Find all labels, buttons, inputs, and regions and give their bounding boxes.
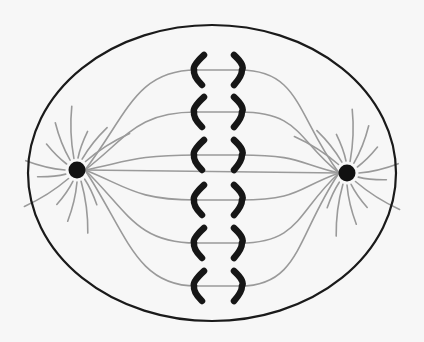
spindle-fiber [85, 170, 196, 200]
spindle-fiber [240, 112, 339, 173]
astral-ray [78, 131, 88, 158]
astral-ray [55, 123, 70, 160]
astral-ray [71, 106, 74, 158]
astral-ray [38, 174, 66, 177]
astral-ray [327, 182, 339, 208]
spindle-fiber [85, 170, 196, 243]
spindle-fiber [240, 155, 339, 173]
spindle-fiber [85, 112, 196, 170]
astral-ray [358, 177, 386, 180]
astral-ray [85, 179, 97, 205]
polar-fiber [85, 170, 339, 173]
astral-ray [57, 181, 73, 204]
astral-ray [354, 126, 369, 163]
metaphase-diagram [0, 0, 424, 342]
astral-ray [336, 134, 346, 161]
spindle-fiber [240, 173, 339, 243]
astral-ray [359, 164, 398, 173]
spindle-fiber [240, 173, 339, 200]
left-pole-centrosome [69, 162, 86, 179]
astral-ray [350, 109, 353, 161]
astral-ray [351, 184, 367, 207]
astral-ray [81, 181, 88, 233]
spindle-fiber [240, 70, 339, 173]
chromosomes [194, 55, 243, 301]
astral-ray [336, 184, 343, 236]
diagram-canvas [0, 0, 424, 342]
right-pole-centrosome [339, 165, 356, 182]
astral-ray [26, 161, 65, 170]
spindle-fibers [85, 70, 339, 286]
